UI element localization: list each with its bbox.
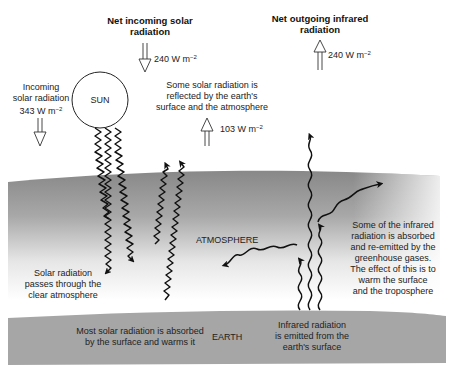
net-incoming-title: Net incoming solar radiation [95,15,205,37]
atmosphere-label: ATMOSPHERE [196,235,258,246]
net-incoming-value: 240 W m−2 [154,52,197,65]
reflected-value: 103 W m−2 [220,122,263,135]
earth-label: EARTH [212,332,242,343]
net-outgoing-title: Net outgoing infrared radiation [265,13,375,35]
net-outgoing-value: 240 W m−2 [328,48,371,61]
clear-atmosphere-label: Solar radiation passes through the clear… [18,268,108,301]
sun-label: SUN [80,95,120,106]
hollow-up-arrow-icon [314,40,326,70]
hollow-down-arrow-icon [139,43,151,72]
incoming-solar-label: Incoming solar radiation 343 W m−2 [8,82,74,117]
reflected-label: Some solar radiation is reflected by the… [152,80,272,113]
hollow-down-arrow-icon [34,118,46,146]
emitted-label: Infrared radiation is emitted from the e… [272,320,352,353]
greenhouse-diagram: Net incoming solar radiation 240 W m−2 N… [0,0,456,371]
greenhouse-label: Some of the infrared radiation is absorb… [338,220,448,297]
absorbed-label: Most solar radiation is absorbed by the … [72,326,208,348]
diagram-graphics [0,0,456,371]
hollow-up-arrow-icon [201,118,213,146]
